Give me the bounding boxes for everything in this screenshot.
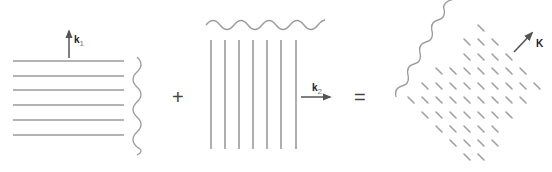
lattice-dash — [478, 83, 484, 89]
lattice-dash — [464, 140, 470, 146]
plus-operator: + — [172, 86, 184, 108]
lattice-dash — [422, 112, 428, 118]
lattice-dash — [450, 112, 456, 118]
lattice-dash — [478, 25, 484, 31]
lattice-dash — [464, 39, 470, 45]
k2-label: k2 — [312, 82, 323, 96]
lattice-dash — [520, 97, 526, 103]
equals-operator: = — [354, 86, 366, 108]
lattice-dash — [506, 68, 512, 74]
lattice-dash — [492, 54, 498, 60]
lattice-dash — [464, 83, 470, 89]
lattice-dash — [436, 112, 442, 118]
panel-sum-wave: K — [396, 0, 544, 160]
lattice-dash — [436, 83, 442, 89]
lattice-dash — [478, 54, 484, 60]
panel-wave-1: k1 — [13, 31, 141, 155]
lattice-dash — [478, 112, 484, 118]
lattice-dash — [422, 97, 428, 103]
lattice-dash — [506, 54, 512, 60]
lattice-dash — [534, 83, 540, 89]
K-label: K — [536, 38, 544, 49]
wave-curve-horizontal — [206, 20, 325, 30]
lattice-dash — [492, 97, 498, 103]
lattice-dash — [464, 54, 470, 60]
lattice-dash — [450, 126, 456, 132]
lattice-dash — [492, 83, 498, 89]
k1-label: k1 — [74, 34, 85, 48]
lattice-dash — [478, 68, 484, 74]
wave-curve-diagonal — [396, 0, 454, 97]
lattice-dash — [450, 68, 456, 74]
wave-curve-vertical — [133, 57, 141, 155]
lattice-dash — [478, 154, 484, 160]
lattice-dash — [436, 97, 442, 103]
lattice-dash — [520, 68, 526, 74]
lattice-dash — [478, 126, 484, 132]
lattice-dash — [478, 97, 484, 103]
lattice-dash — [506, 97, 512, 103]
lattice-dash — [464, 154, 470, 160]
lattice-dash — [492, 112, 498, 118]
lattice-dash — [492, 68, 498, 74]
lattice-dash — [478, 39, 484, 45]
lattice-dash — [408, 97, 414, 103]
lattice-dash — [464, 97, 470, 103]
lattice-dash — [506, 112, 512, 118]
panel-wave-2: k2 — [206, 20, 330, 149]
lattice-dash — [464, 112, 470, 118]
lattice-dash — [436, 126, 442, 132]
K-arrow-icon — [514, 33, 532, 52]
lattice-dash — [478, 140, 484, 146]
lattice-dash — [492, 126, 498, 132]
lattice-dash — [464, 126, 470, 132]
lattice-dash — [422, 83, 428, 89]
lattice-dash — [520, 83, 526, 89]
lattice-dash — [492, 140, 498, 146]
wave-superposition-diagram: k1 + k2 = K — [0, 0, 552, 172]
lattice-dash — [436, 68, 442, 74]
lattice-dash — [464, 68, 470, 74]
wavefronts-vertical — [211, 40, 296, 149]
lattice-dash — [450, 97, 456, 103]
lattice-dash — [492, 39, 498, 45]
wavefronts-horizontal — [13, 61, 124, 135]
lattice-dash — [450, 140, 456, 146]
lattice-dash — [450, 83, 456, 89]
lattice-dash — [506, 83, 512, 89]
